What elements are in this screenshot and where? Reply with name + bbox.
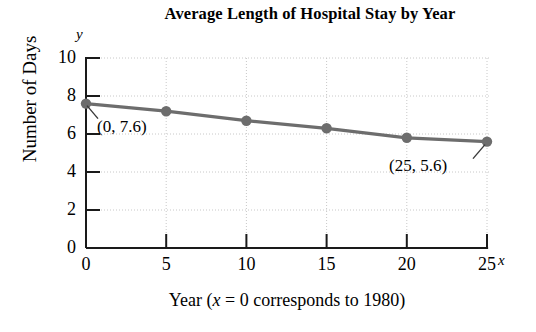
annotation-leader-line: [473, 145, 485, 159]
y-tick-label: 4: [48, 161, 76, 182]
x-tick-label: 15: [312, 254, 342, 275]
tick-marks: [86, 58, 487, 248]
data-point: [241, 116, 251, 126]
plot-area: [0, 0, 536, 332]
y-tick-label: 8: [48, 85, 76, 106]
data-point: [161, 106, 171, 116]
axes: [86, 57, 488, 248]
data-point: [81, 98, 91, 108]
y-tick-label: 2: [48, 199, 76, 220]
x-tick-label: 5: [151, 254, 181, 275]
x-tick-label: 10: [231, 254, 261, 275]
point-annotation: (0, 7.6): [97, 117, 147, 137]
point-annotation: (25, 5.6): [389, 156, 447, 176]
data-point: [482, 136, 492, 146]
x-tick-label: 20: [392, 254, 422, 275]
annotation-leaders: [87, 106, 485, 159]
gridlines: [86, 58, 489, 248]
data-point: [321, 123, 331, 133]
chart-figure: Average Length of Hospital Stay by Year …: [0, 0, 536, 332]
y-tick-label: 6: [48, 123, 76, 144]
x-tick-label: 0: [71, 254, 101, 275]
y-tick-label: 10: [48, 47, 76, 68]
x-tick-label: 25: [472, 254, 502, 275]
data-point: [402, 133, 412, 143]
